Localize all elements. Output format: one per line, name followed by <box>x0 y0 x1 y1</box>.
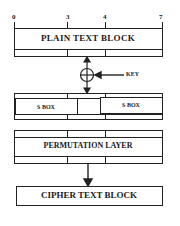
xor-icon <box>81 69 94 82</box>
bit-tick-3: 3 <box>66 14 70 21</box>
bit-tick-7: 7 <box>159 14 163 21</box>
key-arrow-icon <box>95 72 124 78</box>
key-label: KEY <box>126 71 139 77</box>
data-flow-arrow-cipher <box>84 163 92 186</box>
bit-tick-4: 4 <box>103 14 107 21</box>
cipher-text-block-label: CIPHER TEXT BLOCK <box>16 191 162 200</box>
permutation-layer-label: PERMUTATION LAYER <box>14 142 162 150</box>
plain-text-block-label: PLAIN TEXT BLOCK <box>14 34 162 43</box>
bit-tick-0: 0 <box>12 14 16 21</box>
sbox-right-label: S BOX <box>100 102 162 108</box>
sbox-left-label: S BOX <box>15 104 77 110</box>
